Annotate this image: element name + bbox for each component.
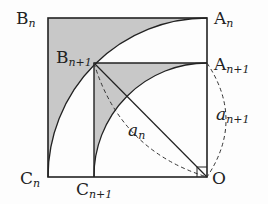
label-bn: Bn bbox=[16, 10, 36, 29]
label-an1: An+1 bbox=[214, 56, 250, 75]
label-o: O bbox=[212, 170, 226, 187]
label-an1-length: an+1 bbox=[216, 106, 249, 125]
label-cn1: Cn+1 bbox=[76, 181, 112, 200]
diagram-canvas bbox=[0, 0, 268, 204]
geometry-diagram: Bn An Bn+1 An+1 Cn Cn+1 O an an+1 bbox=[0, 0, 268, 204]
label-an-length: an bbox=[128, 122, 145, 141]
label-cn: Cn bbox=[20, 170, 40, 189]
label-bn1: Bn+1 bbox=[56, 49, 92, 68]
label-an: An bbox=[214, 10, 233, 29]
